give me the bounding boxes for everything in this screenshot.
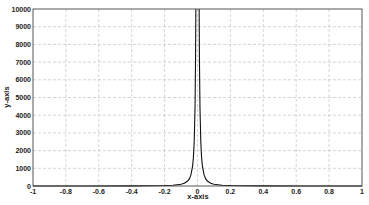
x-tick-label: 1 <box>360 188 364 195</box>
x-tick-label: -0.6 <box>93 188 105 195</box>
y-tick-label: 5000 <box>15 94 31 101</box>
x-axis-label: x-axis <box>187 192 208 201</box>
line-chart: -1-0.8-0.6-0.4-0.200.20.40.60.81 0100020… <box>0 0 369 205</box>
y-tick-label: 6000 <box>15 76 31 83</box>
y-tick-label: 3000 <box>15 129 31 136</box>
y-tick-label: 4000 <box>15 112 31 119</box>
x-tick-label: 0.2 <box>226 188 236 195</box>
x-tick-label: 0.8 <box>324 188 334 195</box>
y-tick-label: 8000 <box>15 41 31 48</box>
x-tick-label: -0.2 <box>159 188 171 195</box>
grid-layer <box>33 9 362 186</box>
x-tick-label: 0.4 <box>258 188 268 195</box>
y-tick-label: 7000 <box>15 59 31 66</box>
y-tick-label: 10000 <box>12 6 32 13</box>
y-axis-label: y-axis <box>2 86 11 107</box>
y-tick-labels: 0100020003000400050006000700080009000100… <box>12 6 32 190</box>
y-tick-label: 9000 <box>15 23 31 30</box>
y-tick-label: 1000 <box>15 165 31 172</box>
x-tick-label: -0.4 <box>126 188 138 195</box>
x-tick-label: 0.6 <box>291 188 301 195</box>
y-tick-label: 0 <box>27 183 31 190</box>
y-tick-label: 2000 <box>15 147 31 154</box>
x-tick-label: -0.8 <box>60 188 72 195</box>
